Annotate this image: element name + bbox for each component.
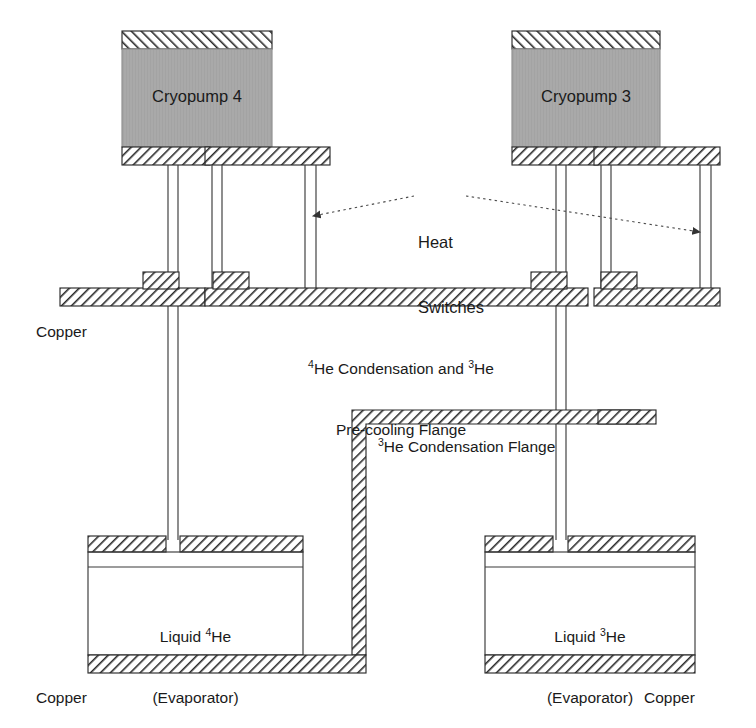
cryopump-3-bottom-cap [512, 147, 598, 165]
heat-switch-right-top-flange [594, 147, 720, 165]
cryopump-3-pumping-line [556, 165, 566, 540]
copper-stub-left [60, 288, 205, 306]
he4-evap-label-pre: Liquid [160, 628, 206, 645]
cryopump-4-bottom-cap [122, 147, 210, 165]
he3-flange-label-text: He Condensation Flange [384, 438, 555, 455]
he4-evap-top-cap-left [88, 536, 166, 552]
cryopump-4-label: Cryopump 4 [122, 86, 272, 108]
copper-riser-right [601, 272, 637, 289]
copper-stub-right [594, 288, 720, 306]
precooling-flange-row [60, 272, 720, 306]
cryopump-3-top-cap [512, 31, 660, 49]
heat-switch-leaders [313, 196, 700, 232]
copper-label-bottom-left: Copper [36, 688, 87, 708]
he4-evap-top-cap-right [180, 536, 303, 552]
he3-evap-label-post: He [606, 628, 626, 645]
diagram-canvas: Cryopump 4 Cryopump 3 Heat Switches Copp… [0, 0, 756, 728]
heat-switches-label-line1: Heat [418, 232, 484, 254]
he3-condensation-flange-label: 3He Condensation Flange [378, 437, 555, 457]
he3-evaporator-label-line1: Liquid 3He [485, 627, 695, 647]
cryopump-3-label: Cryopump 3 [512, 86, 660, 108]
heat-switch-left-top-flange [205, 147, 330, 165]
he3-evap-label-pre: Liquid [554, 628, 600, 645]
heat-switch-leader-right [466, 196, 700, 232]
copper-label-mid-left: Copper [36, 322, 87, 342]
copper-riser-left [143, 272, 179, 289]
heat-switch-leader-left [313, 196, 414, 216]
copper-label-bottom-right: Copper [644, 688, 695, 708]
precooling-label-seg-a: He Condensation and [314, 360, 468, 377]
cryopump-4-pumping-line [168, 165, 178, 540]
precooling-riser-right [531, 272, 567, 289]
he4-evaporator-label-line2: (Evaporator) [88, 688, 303, 708]
heat-switch-left-tubes [212, 165, 316, 290]
heat-switches-label-line2: Switches [418, 297, 484, 319]
heat-switch-right-tubes [601, 165, 711, 290]
he4-evaporator-label: Liquid 4He (Evaporator) [88, 586, 303, 728]
he4-evaporator-label-line1: Liquid 4He [88, 627, 303, 647]
precooling-riser-left [213, 272, 249, 289]
precooling-flange-label-line1: 4He Condensation and 3He [256, 359, 546, 379]
he4-evap-label-post: He [211, 628, 231, 645]
precooling-flange-main [205, 288, 588, 306]
cryopump-4-top-cap [122, 31, 272, 49]
he3-evap-top-cap-left [485, 536, 553, 552]
he3-flange-right-stub [598, 410, 656, 424]
precooling-label-seg-b: He [474, 360, 494, 377]
he3-evap-top-cap-right [568, 536, 695, 552]
